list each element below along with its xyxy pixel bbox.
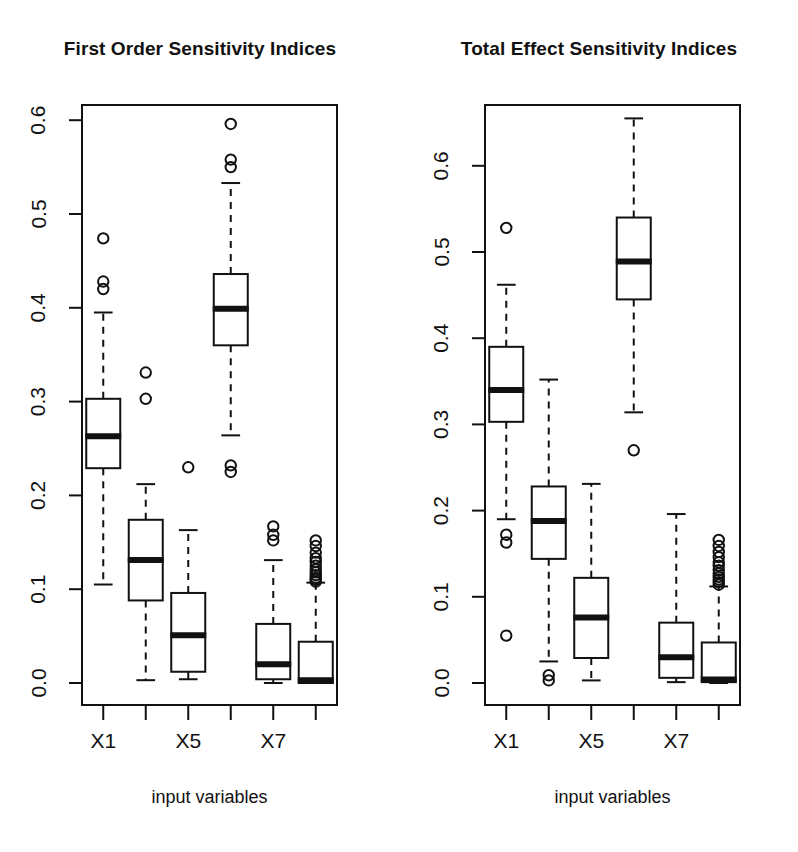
x-axis-group: X1X5X7	[90, 705, 315, 752]
x-axis-group: X1X5X7	[493, 705, 718, 752]
boxplot-X6	[701, 535, 737, 683]
y-tick-label: 0.3	[430, 410, 453, 439]
y-tick-label: 0.5	[27, 199, 50, 228]
boxplot-X2	[128, 367, 164, 680]
boxplot-X4	[213, 119, 249, 477]
boxplot-X5	[658, 514, 694, 682]
outlier-point	[501, 537, 511, 547]
y-tick-label: 0.3	[27, 387, 50, 416]
y-tick-label: 0.6	[27, 106, 50, 135]
outlier-point	[501, 223, 511, 233]
x-tick-label: X7	[260, 729, 286, 752]
x-axis-label: input variables	[554, 787, 670, 807]
y-tick-label: 0.4	[430, 323, 453, 353]
x-axis-label: input variables	[151, 787, 267, 807]
boxplot-X6	[298, 535, 334, 683]
boxplot-X3	[573, 484, 609, 681]
x-tick-label: X7	[663, 729, 689, 752]
box-iqr	[299, 642, 333, 683]
boxplot-canvas-first-order: 0.00.10.20.30.40.50.6X1X5X7input variabl…	[0, 0, 400, 852]
outlier-point	[629, 445, 639, 455]
panel-first-order: First Order Sensitivity Indices 0.00.10.…	[0, 0, 400, 852]
outlier-point	[98, 284, 108, 294]
y-tick-label: 0.4	[27, 293, 50, 323]
outlier-point	[501, 630, 511, 640]
x-tick-label: X5	[578, 729, 604, 752]
outlier-point	[226, 162, 236, 172]
outlier-point	[183, 462, 193, 472]
y-tick-label: 0.0	[27, 668, 50, 697]
y-axis-group: 0.00.10.20.30.40.50.6	[27, 106, 83, 698]
box-iqr	[489, 347, 523, 422]
outlier-point	[98, 233, 108, 243]
x-tick-label: X1	[493, 729, 519, 752]
boxplot-X4	[616, 118, 652, 455]
box-iqr	[659, 623, 693, 678]
y-axis-group: 0.00.10.20.30.40.50.6	[430, 151, 486, 697]
panel-total-effect: Total Effect Sensitivity Indices 0.00.10…	[400, 0, 798, 852]
y-tick-label: 0.2	[27, 481, 50, 510]
y-tick-label: 0.1	[430, 582, 453, 611]
outlier-point	[226, 467, 236, 477]
y-tick-label: 0.2	[430, 496, 453, 525]
outlier-point	[226, 119, 236, 129]
y-tick-label: 0.5	[430, 237, 453, 266]
boxplot-X2	[531, 380, 567, 686]
boxplot-canvas-total-effect: 0.00.10.20.30.40.50.6X1X5X7input variabl…	[400, 0, 798, 852]
y-tick-label: 0.0	[430, 668, 453, 697]
y-tick-label: 0.1	[27, 575, 50, 604]
boxplot-X5	[255, 521, 291, 683]
figure-root: First Order Sensitivity Indices 0.00.10.…	[0, 0, 798, 852]
boxplot-X3	[170, 462, 206, 679]
y-tick-label: 0.6	[430, 151, 453, 180]
boxplot-X1	[488, 223, 524, 641]
x-tick-label: X5	[175, 729, 201, 752]
boxplot-X1	[85, 233, 121, 584]
outlier-point	[141, 367, 151, 377]
box-iqr	[702, 642, 736, 682]
box-iqr	[617, 218, 651, 300]
outlier-point	[141, 394, 151, 404]
box-iqr	[256, 624, 290, 679]
x-tick-label: X1	[90, 729, 116, 752]
